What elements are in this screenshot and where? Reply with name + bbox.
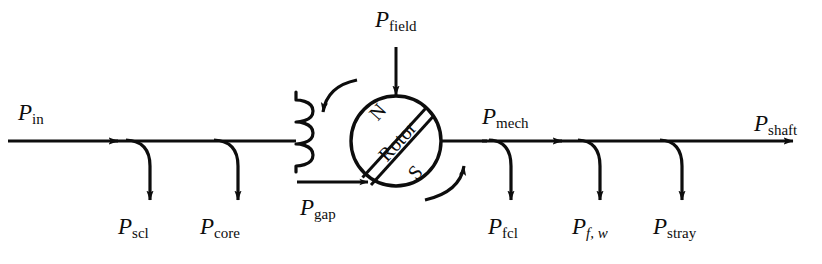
label-p-field: Pfield bbox=[375, 8, 417, 31]
label-p-gap: Pgap bbox=[300, 196, 336, 219]
label-p-stray: Pstray bbox=[653, 215, 696, 238]
rotation-arrow-top bbox=[323, 80, 357, 112]
air-gap-coil-icon bbox=[296, 92, 313, 172]
branch-p-core bbox=[214, 140, 238, 200]
power-flow-diagram: Pin Pscl Pcore Pgap Pfield Pmech Pfcl Pf… bbox=[0, 0, 822, 264]
branch-p-fw bbox=[578, 140, 600, 200]
label-p-fcl: Pfcl bbox=[488, 215, 518, 238]
label-p-scl: Pscl bbox=[118, 215, 149, 238]
label-p-shaft: Pshaft bbox=[754, 112, 797, 135]
label-p-core: Pcore bbox=[200, 215, 240, 238]
branch-p-scl bbox=[126, 140, 150, 200]
label-p-mech: Pmech bbox=[482, 105, 529, 128]
label-p-fw: Pf, w bbox=[572, 215, 608, 238]
branch-p-stray bbox=[660, 140, 682, 200]
branch-p-fcl bbox=[489, 140, 511, 200]
label-p-in: Pin bbox=[18, 101, 44, 124]
